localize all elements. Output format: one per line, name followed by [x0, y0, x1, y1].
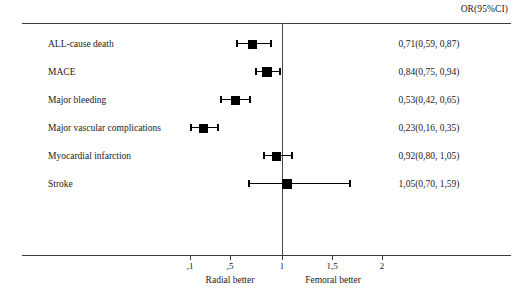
row-value: 1,05(0,70, 1,59) — [360, 170, 498, 198]
row-label: Myocardial infarction — [48, 142, 131, 170]
value-column-header: OR(95%CI) — [360, 4, 508, 14]
ci-upper-cap — [279, 68, 280, 75]
confidence-interval-line — [249, 183, 350, 184]
row-label: Major vascular complications — [48, 114, 161, 142]
ci-lower-cap — [190, 124, 191, 131]
forest-row: Major bleeding0,53(0,42, 0,65) — [0, 86, 519, 114]
effect-estimate-marker — [248, 40, 257, 49]
forest-row: MACE0,84(0,75, 0,94) — [0, 58, 519, 86]
row-value: 0,92(0,80, 1,05) — [360, 142, 498, 170]
effect-estimate-marker — [199, 124, 208, 133]
ci-upper-cap — [270, 40, 271, 47]
axis-tick — [332, 255, 333, 260]
axis-side-note: Radial better — [170, 275, 290, 285]
effect-estimate-marker — [231, 96, 240, 105]
ci-lower-cap — [248, 180, 249, 187]
axis-tick — [382, 255, 383, 260]
ci-upper-cap — [349, 180, 350, 187]
ci-lower-cap — [255, 68, 256, 75]
axis-tick-label: 2 — [367, 261, 397, 271]
top-rule — [22, 23, 511, 24]
axis-tick — [190, 255, 191, 260]
axis-tick-label: 1,5 — [317, 261, 347, 271]
axis-tick — [230, 255, 231, 260]
ci-lower-cap — [220, 96, 221, 103]
row-value: 0,53(0,42, 0,65) — [360, 86, 498, 114]
row-value: 0,71(0,59, 0,87) — [360, 30, 498, 58]
forest-row: Stroke1,05(0,70, 1,59) — [0, 170, 519, 198]
ci-lower-cap — [236, 40, 237, 47]
ci-upper-cap — [217, 124, 218, 131]
row-label: ALL-cause death — [48, 30, 114, 58]
axis-tick-label: ,5 — [215, 261, 245, 271]
forest-row: ALL-cause death0,71(0,59, 0,87) — [0, 30, 519, 58]
forest-row: Myocardial infarction0,92(0,80, 1,05) — [0, 142, 519, 170]
row-label: Stroke — [48, 170, 73, 198]
axis-tick-label: 1 — [267, 261, 297, 271]
row-label: Major bleeding — [48, 86, 106, 114]
row-value: 0,84(0,75, 0,94) — [360, 58, 498, 86]
effect-estimate-marker — [272, 152, 281, 161]
row-label: MACE — [48, 58, 75, 86]
axis-tick — [282, 255, 283, 260]
row-value: 0,23(0,16, 0,35) — [360, 114, 498, 142]
ci-lower-cap — [263, 152, 264, 159]
forest-plot: OR(95%CI) ALL-cause death0,71(0,59, 0,87… — [0, 0, 519, 298]
axis-line — [22, 255, 511, 256]
ci-upper-cap — [291, 152, 292, 159]
forest-row: Major vascular complications0,23(0,16, 0… — [0, 114, 519, 142]
axis-side-note: Femoral better — [273, 275, 393, 285]
effect-estimate-marker — [262, 67, 272, 77]
ci-upper-cap — [249, 96, 250, 103]
effect-estimate-marker — [282, 179, 292, 189]
axis-tick-label: ,1 — [175, 261, 205, 271]
